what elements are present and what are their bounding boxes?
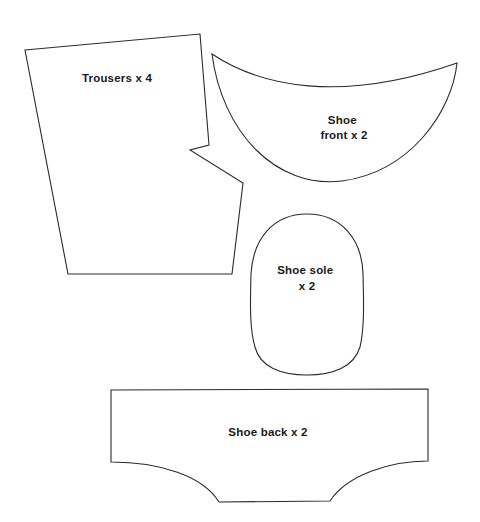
- pattern-sheet: Trousers x 4 Shoe front x 2 Shoe sole x …: [0, 0, 480, 522]
- shoe-sole-label-line-1: Shoe sole: [277, 264, 333, 276]
- shoe-back-label: Shoe back x 2: [228, 426, 307, 438]
- pattern-piece-trousers[interactable]: Trousers x 4: [25, 34, 243, 274]
- trousers-label: Trousers x 4: [82, 72, 153, 84]
- pattern-canvas: Trousers x 4 Shoe front x 2 Shoe sole x …: [0, 0, 480, 522]
- shoe-front-label-line-1: Shoe: [328, 114, 357, 126]
- shoe-sole-label-line-2: x 2: [299, 280, 316, 292]
- pattern-piece-shoe-back[interactable]: Shoe back x 2: [111, 389, 428, 502]
- trousers-outline[interactable]: [25, 34, 243, 274]
- shoe-front-label-line-2: front x 2: [320, 129, 367, 141]
- shoe-back-outline[interactable]: [111, 389, 428, 502]
- shoe-sole-outline[interactable]: [250, 214, 363, 375]
- pattern-piece-shoe-front[interactable]: Shoe front x 2: [212, 54, 457, 182]
- pattern-piece-shoe-sole[interactable]: Shoe sole x 2: [250, 214, 363, 375]
- trousers-label-line-1: Trousers x 4: [82, 72, 153, 84]
- shoe-back-label-line-1: Shoe back x 2: [228, 426, 307, 438]
